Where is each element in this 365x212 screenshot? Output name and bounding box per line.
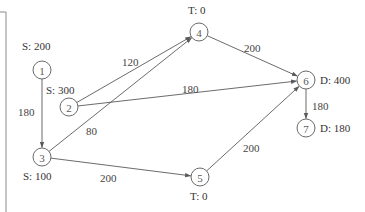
node-annotation-2: S: 300 <box>46 84 75 96</box>
edge-weight-3-5: 200 <box>100 172 117 184</box>
frame-line <box>0 12 6 212</box>
node-annotation-5: T: 0 <box>190 190 208 202</box>
node-6: 6 <box>297 71 315 89</box>
edge-5-to-6 <box>207 86 299 171</box>
node-4: 4 <box>190 23 208 41</box>
node-annotation-3: S: 100 <box>23 170 52 182</box>
node-label: 6 <box>303 75 309 87</box>
network-diagram: 18012018080200200200180 1234567 S: 200S:… <box>0 0 365 212</box>
edge-weight-3-4: 80 <box>86 125 98 137</box>
node-annotation-6: D: 400 <box>320 74 351 86</box>
node-annotation-1: S: 200 <box>22 40 51 52</box>
edge-weight-6-7: 180 <box>312 100 329 112</box>
node-label: 4 <box>196 27 202 39</box>
edge-2-to-4 <box>77 37 191 103</box>
node-1: 1 <box>33 61 51 79</box>
node-label: 7 <box>303 123 309 135</box>
node-3: 3 <box>33 148 51 166</box>
node-7: 7 <box>297 119 315 137</box>
node-annotation-7: D: 180 <box>320 122 351 134</box>
node-label: 5 <box>197 172 203 184</box>
edge-weight-2-6: 180 <box>182 83 199 95</box>
edge-weight-2-4: 120 <box>122 56 139 68</box>
edge-3-to-5 <box>51 158 191 176</box>
node-2: 2 <box>60 98 78 116</box>
edge-weight-1-3: 180 <box>18 106 35 118</box>
node-5: 5 <box>191 168 209 186</box>
node-annotation-4: T: 0 <box>188 4 206 16</box>
node-label: 2 <box>66 102 72 114</box>
node-label: 1 <box>39 65 45 77</box>
edge-weight-4-6: 200 <box>244 42 261 54</box>
node-label: 3 <box>39 152 45 164</box>
edges-layer <box>42 36 306 176</box>
edge-weight-5-6: 200 <box>243 142 260 154</box>
